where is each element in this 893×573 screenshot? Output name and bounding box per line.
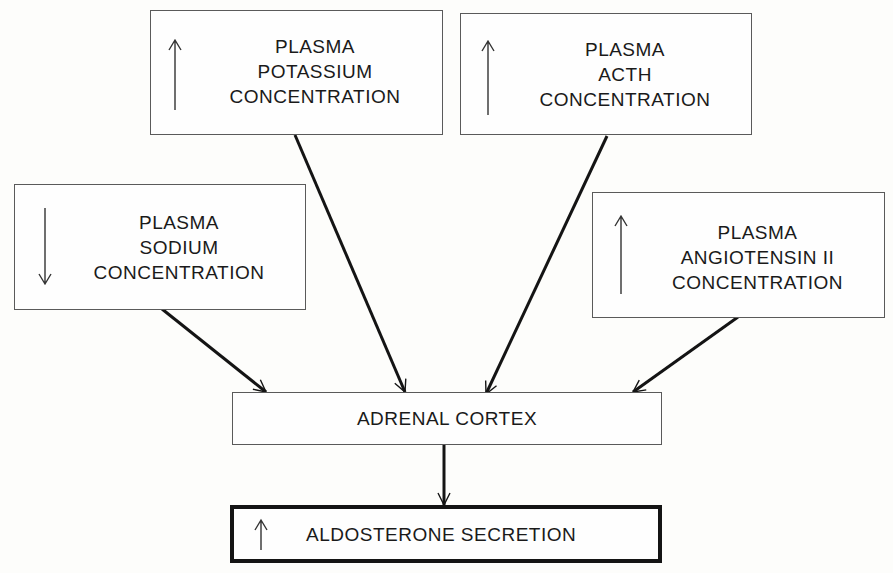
arrow-up-icon <box>614 214 628 296</box>
arrow-down-icon <box>38 206 52 286</box>
label-plasma-potassium: PLASMA POTASSIUM CONCENTRATION <box>200 34 430 109</box>
label-adrenal-cortex: ADRENAL CORTEX <box>232 406 662 431</box>
arrow-up-icon <box>168 38 182 112</box>
label-plasma-angiotensin-ii: PLASMA ANGIOTENSIN II CONCENTRATION <box>640 220 875 295</box>
arrow-potassium-to-adrenal <box>295 135 405 392</box>
label-plasma-sodium: PLASMA SODIUM CONCENTRATION <box>64 210 294 285</box>
arrow-sodium-to-adrenal <box>162 309 266 392</box>
label-aldosterone-secretion: ALDOSTERONE SECRETION <box>290 522 646 547</box>
arrow-up-icon <box>254 518 268 552</box>
arrow-up-icon <box>481 39 495 117</box>
arrow-angiotensin-to-adrenal <box>633 317 738 392</box>
arrow-acth-to-adrenal <box>486 136 607 394</box>
label-plasma-acth: PLASMA ACTH CONCENTRATION <box>510 37 740 112</box>
